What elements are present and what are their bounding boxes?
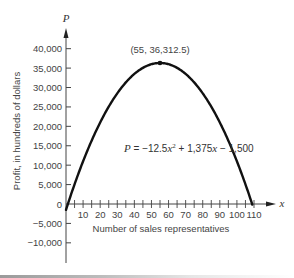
vertex-label: (55, 36,312.5) (130, 44, 189, 55)
equation-label: P = −12.5x2 + 1,375x − 1,500 (123, 142, 254, 154)
profit-curve (66, 63, 252, 210)
profit-parabola-chart: P 40,00035,00030,00025,00020,00015,00010… (0, 0, 294, 278)
x-ticks: 102030405060708090100110 (75, 200, 262, 220)
y-tick-label: 10,000 (33, 160, 62, 171)
x-tick-label: 60 (163, 209, 174, 220)
x-tick-label: 110 (246, 209, 261, 220)
x-axis-arrow-icon (266, 202, 276, 207)
y-tick-label: 35,000 (33, 63, 62, 74)
y-tick-label: −10,000 (27, 237, 62, 248)
y-tick-label: 30,000 (33, 82, 62, 93)
y-tick-label: 15,000 (33, 140, 62, 151)
y-tick-label: 25,000 (33, 101, 62, 112)
x-tick-label: 10 (78, 209, 89, 220)
x-axis-title: Number of sales representatives (93, 223, 230, 234)
x-tick-label: 80 (197, 209, 208, 220)
y-axis-variable: P (62, 12, 70, 24)
x-tick-label: 70 (180, 209, 191, 220)
y-axis: P 40,00035,00030,00025,00020,00015,00010… (27, 12, 71, 263)
y-tick-label: −5,000 (33, 218, 62, 229)
x-tick-label: 20 (95, 209, 106, 220)
y-tick-label: 40,000 (33, 43, 62, 54)
x-tick-label: 40 (129, 209, 140, 220)
y-tick-label: 5,000 (38, 179, 62, 190)
y-axis-title: Profit, in hundreds of dollars (11, 72, 22, 191)
x-tick-label: 50 (146, 209, 157, 220)
y-ticks: 40,00035,00030,00025,00020,00015,00010,0… (27, 43, 71, 248)
vertex-point (158, 61, 163, 66)
x-axis-variable: x (279, 197, 285, 209)
x-tick-label: 30 (112, 209, 123, 220)
y-axis-arrow-icon (64, 28, 69, 38)
x-tick-label: 90 (215, 209, 226, 220)
y-tick-label: 20,000 (33, 121, 62, 132)
y-tick-label: 0 (57, 199, 62, 210)
x-tick-label: 100 (229, 209, 245, 220)
